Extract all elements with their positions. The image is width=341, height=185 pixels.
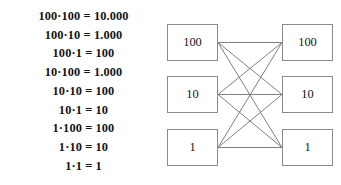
figure-root: 100·100 = 10.000100·10 = 1.000100·1 = 10… xyxy=(0,0,341,185)
left-node-1[interactable]: 1 xyxy=(167,129,218,166)
node-label: 1 xyxy=(304,141,310,153)
node-label: 10 xyxy=(186,88,198,100)
equation-line: 1·1 = 1 xyxy=(6,157,161,176)
left-node-10[interactable]: 10 xyxy=(167,76,218,113)
node-label: 10 xyxy=(301,88,313,100)
equation-line: 1·100 = 100 xyxy=(6,119,161,138)
equation-line: 10·10 = 100 xyxy=(6,82,161,101)
bipartite-diagram: 100 10 1 100 10 1 xyxy=(160,0,341,185)
node-label: 100 xyxy=(298,36,317,48)
right-node-1[interactable]: 1 xyxy=(282,129,333,166)
equation-line: 1·10 = 10 xyxy=(6,138,161,157)
node-label: 100 xyxy=(183,36,202,48)
equation-list: 100·100 = 10.000100·10 = 1.000100·1 = 10… xyxy=(6,7,161,175)
equation-line: 10·1 = 10 xyxy=(6,101,161,120)
equation-line: 10·100 = 1.000 xyxy=(6,63,161,82)
left-node-100[interactable]: 100 xyxy=(167,24,218,61)
right-node-10[interactable]: 10 xyxy=(282,76,333,113)
right-node-100[interactable]: 100 xyxy=(282,24,333,61)
equation-line: 100·1 = 100 xyxy=(6,44,161,63)
equation-line: 100·10 = 1.000 xyxy=(6,26,161,45)
node-label: 1 xyxy=(189,141,195,153)
equation-line: 100·100 = 10.000 xyxy=(6,7,161,26)
